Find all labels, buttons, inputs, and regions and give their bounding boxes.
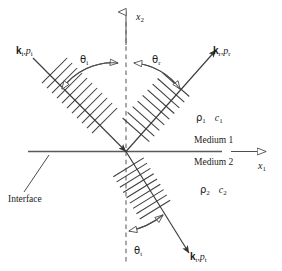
medium1-name-label: Medium 1 xyxy=(194,136,233,146)
reflected-ray-label: kr,pr xyxy=(213,41,231,58)
x1-axis-label: x1 xyxy=(258,156,266,173)
wave-interface-diagram: x2 x1 ki,pi θi θr kr,pr ρ1c1 Medium 1 Me… xyxy=(0,0,282,271)
medium2-name-label: Medium 2 xyxy=(194,158,233,168)
medium2-properties-label: ρ2c2 xyxy=(200,180,227,197)
interface-label: Interface xyxy=(8,195,42,205)
diagram-canvas xyxy=(0,0,282,271)
reflected-wavefront-ticks xyxy=(123,73,190,142)
incident-wavefront-ticks xyxy=(42,58,117,133)
theta-t-arc xyxy=(129,215,163,231)
transmitted-ray xyxy=(113,152,189,254)
interface-leader-line xyxy=(24,155,49,192)
incident-ray-label: ki,pi xyxy=(16,41,33,58)
medium1-properties-label: ρ1c1 xyxy=(196,108,223,125)
theta-t-label: θt xyxy=(134,241,142,258)
x2-axis-label: x2 xyxy=(136,7,144,24)
theta-i-label: θi xyxy=(80,50,88,67)
transmitted-ray-label: kt,pt xyxy=(190,247,207,264)
theta-r-label: θr xyxy=(152,50,160,67)
